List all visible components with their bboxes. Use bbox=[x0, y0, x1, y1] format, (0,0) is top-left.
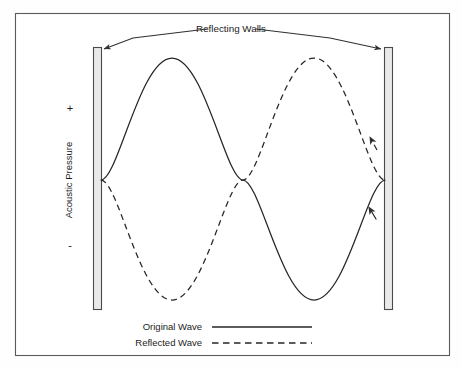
figure-root: Reflecting Walls + - Acoustic Pressure O… bbox=[0, 0, 462, 369]
y-axis-label: Acoustic Pressure bbox=[63, 142, 74, 219]
axis-negative-sign: - bbox=[68, 239, 72, 251]
legend-label-reflected-wave: Reflected Wave bbox=[135, 337, 202, 348]
standing-wave-diagram: Reflecting Walls + - Acoustic Pressure O… bbox=[0, 0, 462, 369]
axis-positive-sign: + bbox=[67, 102, 73, 114]
legend-label-original-wave: Original Wave bbox=[143, 321, 202, 332]
right-reflecting-wall bbox=[385, 48, 393, 310]
left-reflecting-wall bbox=[94, 48, 102, 310]
